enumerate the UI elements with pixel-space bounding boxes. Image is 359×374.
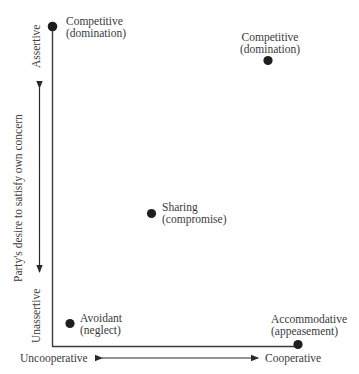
label-line2: (neglect)	[80, 324, 122, 336]
label-accommodative: Accommodative (appeasement)	[271, 313, 347, 337]
label-line2: (domination)	[240, 43, 300, 55]
label-line1: Accommodative	[271, 313, 347, 325]
label-competitive-top-right: Competitive (domination)	[240, 31, 300, 55]
dot-sharing	[147, 209, 156, 218]
label-line1: Competitive	[240, 31, 300, 43]
label-line2: (compromise)	[162, 213, 227, 225]
dot-competitive-top-left	[48, 22, 58, 32]
label-line1: Competitive	[66, 15, 126, 27]
label-line1: Sharing	[162, 201, 227, 213]
label-sharing: Sharing (compromise)	[162, 201, 227, 225]
label-line2: (domination)	[66, 27, 126, 39]
y-axis-bottom-label: Unassertive	[30, 289, 42, 343]
label-avoidant: Avoidant (neglect)	[80, 312, 122, 336]
conflict-styles-diagram: Competitive (domination) Competitive (do…	[0, 0, 359, 374]
label-line2: (appeasement)	[271, 325, 347, 337]
label-competitive-top-left: Competitive (domination)	[66, 15, 126, 39]
dot-avoidant	[65, 319, 74, 328]
x-axis-left-label: Uncooperative	[20, 352, 88, 364]
y-axis-title: Party's desire to satisfy own concern	[12, 114, 24, 282]
dot-accommodative	[293, 340, 302, 349]
dot-competitive-top-right	[263, 56, 272, 65]
x-axis-right-label: Cooperative	[265, 352, 321, 364]
label-line1: Avoidant	[80, 312, 122, 324]
y-axis-top-label: Assertive	[30, 25, 42, 68]
